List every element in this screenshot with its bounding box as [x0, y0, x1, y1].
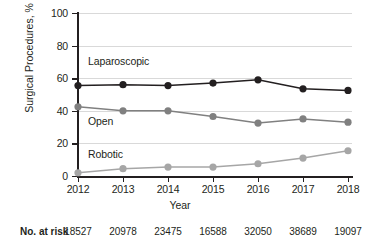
data-point-open	[119, 107, 126, 114]
data-point-robotic	[344, 147, 351, 154]
no-at-risk-value: 38689	[280, 226, 326, 237]
no-at-risk-row: No. at risk 1852720978234751658832050386…	[0, 226, 360, 242]
data-point-laparoscopic	[209, 79, 216, 86]
data-point-open	[164, 107, 171, 114]
series-label-robotic: Robotic	[88, 149, 123, 160]
data-point-open	[254, 119, 261, 126]
no-at-risk-value: 18527	[55, 226, 101, 237]
data-point-laparoscopic	[254, 76, 261, 83]
data-point-laparoscopic	[299, 85, 306, 92]
no-at-risk-value: 16588	[190, 226, 236, 237]
no-at-risk-value: 20978	[100, 226, 146, 237]
data-point-robotic	[299, 154, 306, 161]
data-point-open	[209, 113, 216, 120]
series-label-laparoscopic: Laparoscopic	[88, 56, 149, 67]
data-point-robotic	[209, 163, 216, 170]
data-point-robotic	[164, 163, 171, 170]
series-label-open: Open	[88, 116, 113, 127]
no-at-risk-value: 23475	[145, 226, 191, 237]
data-point-laparoscopic	[119, 81, 126, 88]
data-point-open	[74, 103, 81, 110]
data-point-robotic	[119, 165, 126, 172]
data-point-robotic	[254, 160, 261, 167]
data-point-robotic	[74, 169, 81, 176]
data-point-open	[344, 119, 351, 126]
data-point-open	[299, 115, 306, 122]
no-at-risk-value: 32050	[235, 226, 281, 237]
data-point-laparoscopic	[344, 87, 351, 94]
no-at-risk-value: 19097	[325, 226, 366, 237]
data-point-laparoscopic	[74, 82, 81, 89]
data-point-laparoscopic	[164, 82, 171, 89]
